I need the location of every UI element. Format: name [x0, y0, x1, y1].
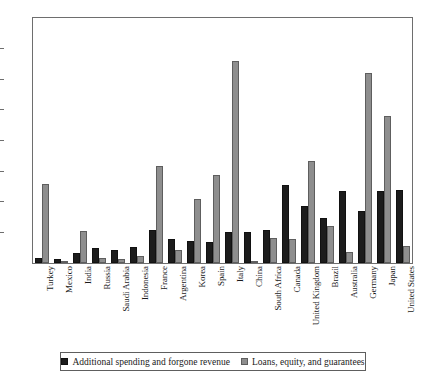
- bar-group: [73, 18, 87, 263]
- x-axis-label: South Africa: [274, 266, 283, 311]
- bar: [289, 239, 296, 264]
- x-axis-label: Indonesia: [141, 266, 150, 300]
- bar: [175, 250, 182, 263]
- bar-group: [168, 18, 182, 263]
- legend-item[interactable]: Loans, equity, and guarantees: [241, 357, 365, 367]
- bar: [149, 230, 156, 263]
- bar: [42, 184, 49, 263]
- y-axis-tick-mark: [0, 140, 4, 141]
- x-axis-label: India: [84, 266, 93, 284]
- x-axis-label: Canada: [293, 266, 302, 292]
- bar: [61, 261, 68, 263]
- bar: [339, 191, 346, 263]
- bar-group: [187, 18, 201, 263]
- bar-group: [225, 18, 239, 263]
- bar-group: [206, 18, 220, 263]
- x-axis-label: Italy: [236, 266, 245, 282]
- y-axis: 0510152025303540: [0, 0, 32, 281]
- bar-group: [301, 18, 315, 263]
- bar: [111, 250, 118, 263]
- bar: [92, 248, 99, 263]
- x-axis-label: Russia: [103, 266, 112, 289]
- x-axis-labels: TurkeyMexicoIndiaRussiaSaudi ArabiaIndon…: [33, 266, 412, 342]
- bar-group: [320, 18, 334, 263]
- bar: [73, 253, 80, 263]
- bar: [232, 61, 239, 263]
- bar: [301, 206, 308, 263]
- bars-layer: [33, 18, 412, 263]
- x-axis-label: Mexico: [65, 266, 74, 293]
- x-axis-label: Turkey: [46, 266, 55, 291]
- bar-group: [358, 18, 372, 263]
- x-axis-label: Germany: [369, 266, 378, 299]
- bar: [263, 230, 270, 263]
- y-axis-tick-mark: [0, 109, 4, 110]
- bar: [213, 175, 220, 263]
- y-axis-tick-mark: [0, 171, 4, 172]
- bar: [365, 73, 372, 263]
- bar: [99, 258, 106, 264]
- bar: [118, 259, 125, 263]
- y-axis-tick-mark: [0, 201, 4, 202]
- y-axis-tick-mark: [0, 48, 4, 49]
- bar-group: [244, 18, 258, 263]
- bar: [187, 241, 194, 263]
- bar: [358, 211, 365, 263]
- bar: [251, 261, 258, 263]
- bar: [270, 238, 277, 263]
- x-axis-label: Spain: [217, 266, 226, 286]
- legend-label: Additional spending and forgone revenue: [72, 357, 230, 367]
- bar: [377, 191, 384, 263]
- bar: [225, 232, 232, 263]
- x-axis-label: China: [255, 266, 264, 287]
- bar: [282, 185, 289, 263]
- legend-swatch-icon: [241, 358, 248, 365]
- bar: [206, 242, 213, 263]
- bar: [35, 258, 42, 263]
- y-axis-tick-mark: [0, 232, 4, 233]
- bar-group: [149, 18, 163, 263]
- bar: [168, 239, 175, 264]
- x-axis-label: Argentina: [179, 266, 188, 301]
- x-axis-label: Saudi Arabia: [122, 266, 131, 312]
- x-axis-label: Korea: [198, 266, 207, 288]
- bar-group: [263, 18, 277, 263]
- legend-swatch-icon: [61, 358, 68, 365]
- bar: [403, 246, 410, 263]
- x-axis-label: Japan: [388, 266, 397, 286]
- bar: [396, 190, 403, 264]
- bar-group: [35, 18, 49, 263]
- chart-figure: 0510152025303540 TurkeyMexicoIndiaRussia…: [0, 0, 425, 381]
- bar-group: [54, 18, 68, 263]
- x-axis-label: Australia: [350, 266, 359, 298]
- x-axis-label: France: [160, 266, 169, 290]
- bar-group: [130, 18, 144, 263]
- bar: [130, 247, 137, 263]
- bar-group: [111, 18, 125, 263]
- bar-group: [282, 18, 296, 263]
- bar-group: [339, 18, 353, 263]
- x-axis-label: United States: [407, 266, 416, 313]
- bar: [320, 218, 327, 263]
- chart-legend: Additional spending and forgone revenueL…: [60, 352, 366, 371]
- x-axis-label: Brazil: [331, 266, 340, 287]
- bar-group: [396, 18, 410, 263]
- bar: [384, 116, 391, 263]
- x-axis-label: United Kingdom: [312, 266, 321, 325]
- bar-group: [377, 18, 391, 263]
- bar: [54, 259, 61, 263]
- bar: [327, 226, 334, 263]
- bar: [137, 256, 144, 263]
- bar: [308, 161, 315, 263]
- bar: [80, 231, 87, 263]
- bar: [244, 232, 251, 263]
- y-axis-tick-mark: [0, 79, 4, 80]
- bar: [156, 166, 163, 263]
- bar-group: [92, 18, 106, 263]
- legend-item[interactable]: Additional spending and forgone revenue: [61, 357, 230, 367]
- bar: [346, 252, 353, 263]
- bar: [194, 199, 201, 263]
- legend-label: Loans, equity, and guarantees: [252, 357, 365, 367]
